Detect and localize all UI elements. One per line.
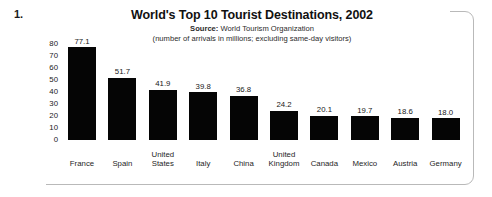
question-number: 1.: [14, 8, 23, 20]
bar-rect: [149, 90, 177, 140]
x-axis-category-line: Italy: [180, 159, 226, 168]
y-axis-tick: 70: [49, 52, 58, 60]
x-axis-category-line: United: [261, 150, 307, 159]
bar-value-label: 19.7: [345, 106, 385, 115]
bar-value-label: 18.0: [426, 108, 466, 117]
plot-area: 80706050403020100 77.1France51.7Spain41.…: [36, 44, 466, 184]
y-axis-tick: 0: [54, 136, 58, 144]
x-axis-category-line: Kingdom: [261, 159, 307, 168]
y-axis-tick: 20: [49, 112, 58, 120]
x-axis-category-label: Mexico: [342, 159, 388, 168]
bar-column: 36.8China: [224, 44, 264, 184]
bar-value-label: 39.8: [183, 82, 223, 91]
bar-value-label: 20.1: [304, 105, 344, 114]
x-axis-category-label: Italy: [180, 159, 226, 168]
x-axis-category-line: Mexico: [342, 159, 388, 168]
chart-screenshot: 1. World's Top 10 Tourist Destinations, …: [0, 0, 492, 197]
x-axis-category-label: Austria: [382, 159, 428, 168]
y-axis: 80706050403020100: [36, 44, 58, 141]
bar-column: 20.1Canada: [304, 44, 344, 184]
bar-column: 18.0Germany: [426, 44, 466, 184]
bar-value-label: 41.9: [143, 79, 183, 88]
x-axis-category-label: Germany: [423, 159, 469, 168]
y-axis-tick: 60: [49, 64, 58, 72]
y-axis-tick: 80: [49, 40, 58, 48]
x-axis-category-line: States: [140, 159, 186, 168]
source-value: World Tourism Organization: [220, 24, 313, 33]
bar-column: 41.9UnitedStates: [143, 44, 183, 184]
y-axis-tick: 40: [49, 88, 58, 96]
x-axis-category-line: France: [59, 159, 105, 168]
bar-rect: [189, 92, 217, 140]
x-axis-category-label: China: [221, 159, 267, 168]
source-label: Source:: [190, 24, 218, 33]
x-axis-category-label: Spain: [99, 159, 145, 168]
chart-title: World's Top 10 Tourist Destinations, 200…: [30, 8, 474, 23]
y-axis-tick: 10: [49, 124, 58, 132]
bar-rect: [351, 116, 379, 140]
chart-source: Source: World Tourism Organization: [30, 24, 474, 34]
bar-rect: [391, 118, 419, 140]
bar-rect: [432, 118, 460, 140]
bar-value-label: 24.2: [264, 100, 304, 109]
bar-column: 51.7Spain: [102, 44, 142, 184]
x-axis-category-line: China: [221, 159, 267, 168]
x-axis-category-line: United: [140, 150, 186, 159]
bar-column: 19.7Mexico: [345, 44, 385, 184]
x-axis-category-label: UnitedKingdom: [261, 150, 307, 168]
bar-value-label: 18.6: [385, 107, 425, 116]
y-axis-tick: 50: [49, 76, 58, 84]
bar-column: 24.2UnitedKingdom: [264, 44, 304, 184]
x-axis-category-line: Spain: [99, 159, 145, 168]
x-axis-category-label: UnitedStates: [140, 150, 186, 168]
bar-column: 39.8Italy: [183, 44, 223, 184]
bar-value-label: 36.8: [224, 85, 264, 94]
x-axis-category-label: Canada: [301, 159, 347, 168]
x-axis-category-line: Austria: [382, 159, 428, 168]
bar-value-label: 77.1: [62, 37, 102, 46]
x-axis-category-line: Canada: [301, 159, 347, 168]
bar-column: 18.6Austria: [385, 44, 425, 184]
bar-rect: [68, 47, 96, 140]
bar-series: 77.1France51.7Spain41.9UnitedStates39.8I…: [62, 44, 466, 184]
x-axis-category-label: France: [59, 159, 105, 168]
bar-rect: [310, 116, 338, 140]
y-axis-tick: 30: [49, 100, 58, 108]
bar-column: 77.1France: [62, 44, 102, 184]
bar-rect: [270, 111, 298, 140]
x-axis-category-line: Germany: [423, 159, 469, 168]
bar-rect: [230, 96, 258, 140]
bar-value-label: 51.7: [102, 67, 142, 76]
bar-rect: [108, 78, 136, 140]
